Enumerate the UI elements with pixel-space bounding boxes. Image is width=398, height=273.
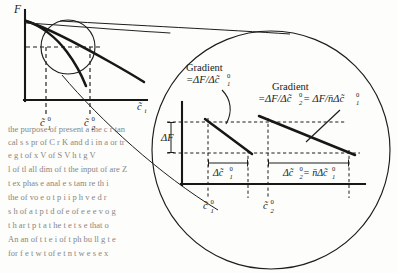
gradient-annotation-2-title: Gradient: [272, 81, 309, 92]
svg-text:e g t of x V of S V h: e g t of x V of S V h t g V: [8, 150, 96, 160]
delta-c1-label: Δc̃ 1 0: [212, 165, 234, 180]
main-plot-x-axis-label-sub: i: [145, 107, 147, 115]
gradient-annotation-1-formula: =ΔF/Δc̃: [186, 74, 221, 85]
delta-c2-label-equals: = n̄Δc̃: [303, 167, 328, 178]
magnified-tick-2-sup: 0: [271, 198, 275, 205]
magnified-tick-1-sub: 1: [211, 207, 214, 214]
delta-c1-label-base: Δc̃: [212, 167, 224, 178]
gradient-annotation-2-formula-2-sub: 1: [356, 99, 359, 106]
delta-c1-label-sub: 1: [230, 173, 233, 180]
delta-f-label: ΔF: [160, 132, 174, 143]
magnified-tick-2-sub: 2: [271, 207, 275, 214]
figure-svg: the purpose of present a the c r tan cal…: [0, 0, 398, 273]
figure-page: the purpose of present a the c r tan cal…: [0, 0, 398, 273]
delta-c2-label-base: Δc̃: [282, 167, 294, 178]
magnified-tick-1-sup: 0: [211, 198, 215, 205]
gradient-annotation-2-formula-1: =ΔF/Δc̃: [258, 93, 293, 104]
svg-text:t h ar t p t a t he t: t h ar t p t a t he t e t s e that o: [8, 220, 109, 230]
svg-text:for f e t w t of e t: for f e t w t of e t n t w e s e x: [8, 248, 109, 258]
paper-bleed-texture: the purpose of present a the c r tan cal…: [0, 0, 398, 273]
main-plot-tick-2-sup: 0: [92, 115, 96, 122]
svg-text:cal s s pr of C r K an: cal s s pr of C r K and d i in a or tr: [8, 137, 125, 147]
svg-text:s h of a t p t d of e: s h of a t p t d of e of e e e v o g: [8, 206, 116, 216]
svg-text:the purpose of present a: the purpose of present a the c r tan: [8, 124, 126, 134]
gradient-annotation-1-formula-sub: 1: [227, 80, 230, 87]
main-plot-tick-1-sub: 1: [48, 124, 51, 131]
gradient-annotation-1-title: Gradient: [186, 62, 223, 73]
svg-text:l of tl all dim of t th: l of tl all dim of t the input of are Z: [8, 164, 127, 174]
svg-text:t ex phas e anal e s ta: t ex phas e anal e s tam re th i: [8, 178, 109, 188]
main-plot-tick-2-sub: 2: [92, 124, 96, 131]
gradient-annotation-2-formula-2: = ΔF/n̄Δc̃: [303, 93, 345, 104]
delta-c2-label-equals-sub: 1: [332, 173, 335, 180]
main-plot-tick-1-sup: 0: [48, 115, 52, 122]
main-plot-y-axis-label: F: [13, 3, 22, 15]
svg-text:An an of t t e i of t: An an of t t e i of t ph bu ll g t e: [8, 234, 116, 244]
svg-text:the of vo e o t p i i: the of vo e o t p i i p h v e d r: [8, 192, 107, 202]
